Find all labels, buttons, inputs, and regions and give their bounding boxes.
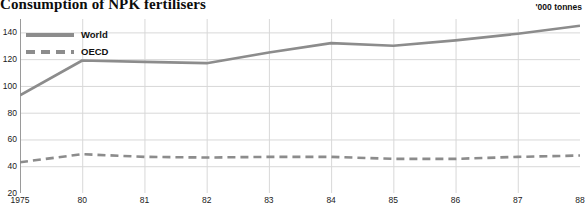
x-axis-tick: 88 [575, 196, 584, 205]
legend-item-oecd: OECD [26, 44, 138, 61]
legend-swatch-world-icon [26, 33, 74, 37]
x-axis-tick: 83 [264, 196, 273, 205]
x-axis-tick: 84 [326, 196, 335, 205]
y-axis-tick: 80 [8, 108, 17, 117]
legend-label-world: World [81, 27, 108, 43]
legend-swatch-oecd-icon [26, 50, 74, 54]
legend-label-oecd: OECD [81, 44, 108, 60]
x-axis-tick: 80 [77, 196, 86, 205]
y-axis-tick: 60 [8, 135, 17, 144]
y-axis-tick: 120 [3, 55, 17, 64]
x-axis-tick: 81 [140, 196, 149, 205]
x-axis-tick-labels: 1975808182838485868788 [0, 196, 586, 212]
chart-figure: Consumption of NPK fertilisers '000 tonn… [0, 0, 586, 216]
legend-item-world: World [26, 27, 138, 44]
y-axis-tick: 40 [8, 162, 17, 171]
x-axis-tick: 1975 [11, 196, 30, 205]
y-axis-tick: 100 [3, 82, 17, 91]
x-axis-tick: 82 [202, 196, 211, 205]
x-axis-tick: 86 [451, 196, 460, 205]
y-axis-tick: 140 [3, 28, 17, 37]
chart-legend: World OECD [26, 27, 138, 61]
chart-unit-label: '000 tonnes [536, 2, 582, 12]
y-axis-tick-labels: 20406080100120140 [0, 19, 20, 193]
x-axis-tick: 87 [513, 196, 522, 205]
x-axis-tick: 85 [389, 196, 398, 205]
page-title: Consumption of NPK fertilisers [0, 0, 206, 13]
